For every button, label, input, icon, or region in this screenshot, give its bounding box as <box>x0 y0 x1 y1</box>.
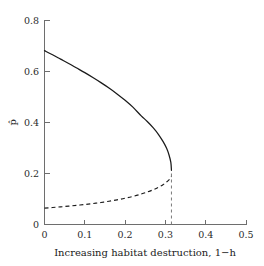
x-tick-label-5: 0.5 <box>238 229 253 240</box>
stable-branch-curve <box>45 51 172 171</box>
x-tick-label-4: 0.4 <box>198 229 213 240</box>
x-tick-label-1: 0.1 <box>77 229 92 240</box>
bifurcation-diagram-figure: 0 0.2 0.4 0.6 0.8 0 0.1 0.2 0.3 0.4 0.5 … <box>0 0 264 266</box>
unstable-branch-curve <box>45 177 172 209</box>
x-axis-title: Increasing habitat destruction, 1−h <box>54 247 236 258</box>
y-axis-title: p̂ <box>7 119 18 125</box>
x-axis-ticks <box>45 220 247 225</box>
y-tick-label-2: 0.4 <box>24 117 39 128</box>
y-tick-label-3: 0.6 <box>24 66 39 77</box>
y-tick-label-1: 0.2 <box>24 168 39 179</box>
plot-canvas: 0 0.2 0.4 0.6 0.8 0 0.1 0.2 0.3 0.4 0.5 … <box>0 0 264 266</box>
x-tick-label-2: 0.2 <box>118 229 133 240</box>
x-tick-label-0: 0 <box>41 229 47 240</box>
y-tick-label-0: 0 <box>33 219 39 230</box>
y-tick-label-4: 0.8 <box>24 15 39 26</box>
x-tick-label-3: 0.3 <box>158 229 173 240</box>
